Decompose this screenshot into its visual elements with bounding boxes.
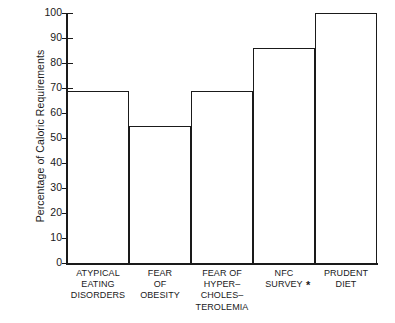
- x-axis-category-label-line: TEROLEMIA: [191, 302, 253, 313]
- x-axis-category-label-line: EATING: [67, 279, 129, 290]
- x-axis-category-labels: ATYPICALEATINGDISORDERSFEAROFOBESITYFEAR…: [67, 268, 377, 323]
- x-axis-category-label-line: OBESITY: [129, 290, 191, 301]
- y-axis-tick-mark: [62, 13, 73, 14]
- x-axis-category-label-line: DISORDERS: [67, 290, 129, 301]
- y-axis-tick-label: 50: [50, 131, 62, 143]
- y-axis-tick-label: 100: [44, 6, 62, 18]
- y-axis-tick-mark: [62, 38, 73, 39]
- bar: [67, 91, 129, 264]
- plot-area: 0102030405060708090100: [67, 13, 377, 263]
- x-axis-category-label-line: ATYPICAL: [67, 268, 129, 279]
- y-axis-tick-mark: [62, 63, 73, 64]
- x-axis-category-label: PRUDENTDIET: [315, 268, 377, 290]
- y-axis-tick-label: 10: [50, 231, 62, 243]
- y-axis-tick-label: 80: [50, 56, 62, 68]
- bar: [191, 91, 253, 264]
- bar-chart: Percentage of Caloric Requirements 01020…: [0, 0, 395, 323]
- y-axis-tick-label: 40: [50, 156, 62, 168]
- x-axis-category-label: FEAROFOBESITY: [129, 268, 191, 302]
- y-axis-title: Percentage of Caloric Requirements: [34, 11, 46, 261]
- y-axis-tick-label: 60: [50, 106, 62, 118]
- x-axis-line: [66, 263, 378, 265]
- y-axis-tick-label: 90: [50, 31, 62, 43]
- y-axis-tick-label: 0: [56, 256, 62, 268]
- y-axis-tick-label: 30: [50, 181, 62, 193]
- x-axis-category-label-line: NFC: [253, 268, 315, 279]
- x-axis-category-label-line: PRUDENT: [315, 268, 377, 279]
- bar: [253, 48, 315, 263]
- y-axis-tick-mark: [62, 88, 73, 89]
- x-axis-category-label-line: DIET: [315, 279, 377, 290]
- x-axis-category-label-line: FEAR OF: [191, 268, 253, 279]
- x-axis-category-label-line: OF: [129, 279, 191, 290]
- x-axis-category-label-line: CHOLES–: [191, 290, 253, 301]
- y-axis-tick-mark: [62, 263, 73, 264]
- y-axis-tick-label: 70: [50, 81, 62, 93]
- x-axis-category-label-line: HYPER–: [191, 279, 253, 290]
- bar: [315, 13, 377, 263]
- y-axis-tick-label: 20: [50, 206, 62, 218]
- asterisk-footnote-marker: *: [306, 280, 310, 291]
- x-axis-category-label: ATYPICALEATINGDISORDERS: [67, 268, 129, 302]
- x-axis-category-label: FEAR OFHYPER–CHOLES–TEROLEMIA: [191, 268, 253, 313]
- bar: [129, 126, 191, 264]
- x-axis-category-label-line: FEAR: [129, 268, 191, 279]
